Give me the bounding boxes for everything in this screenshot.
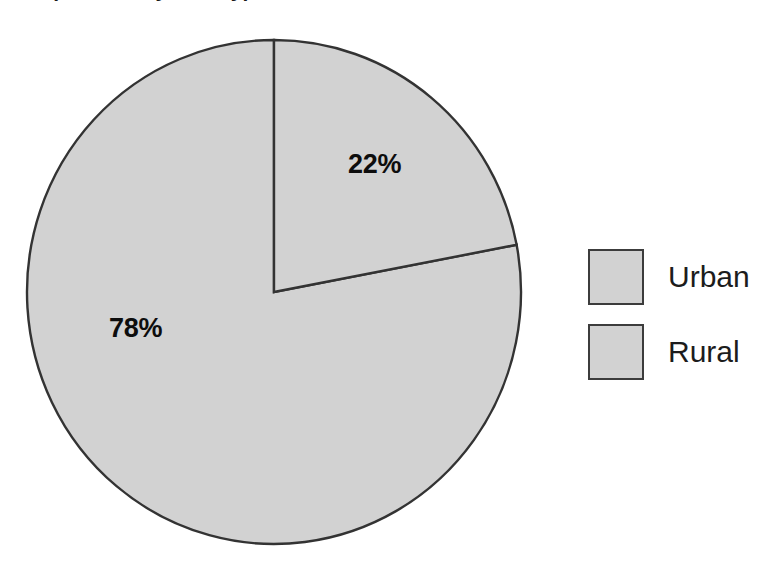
slice-value-label-rural: 78%	[109, 313, 162, 344]
legend-swatch-rural	[588, 324, 644, 380]
chart-legend: Urban Rural	[588, 248, 764, 398]
legend-label-rural: Rural	[668, 337, 740, 367]
legend-swatch-urban	[588, 249, 644, 305]
legend-item-rural[interactable]: Rural	[588, 323, 764, 381]
legend-item-urban[interactable]: Urban	[588, 248, 764, 306]
slice-value-label-urban: 22%	[348, 149, 401, 180]
legend-label-urban: Urban	[668, 262, 750, 292]
pie-chart-figure: Population by area type 22% 78% Urban Ru…	[0, 0, 768, 564]
